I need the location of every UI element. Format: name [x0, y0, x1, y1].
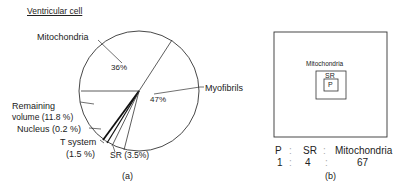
ratio-values: 1 : 4 : 67 — [277, 157, 368, 168]
caption-b: (b) — [325, 172, 336, 181]
label-tsystem-2: (1.5 %) — [66, 150, 95, 159]
caption-a: (a) — [122, 172, 133, 181]
label-mitochondria: Mitochondria — [37, 33, 89, 42]
label-remaining-2: volume (11.8 %) — [12, 113, 73, 122]
box-label-p: P — [328, 81, 333, 88]
ratio-header: P : SR : Mitochondria — [275, 145, 392, 156]
label-myofibrils: Myofibrils — [205, 84, 243, 93]
box-label-mitochondria: Mitochondria — [306, 61, 343, 68]
pct-myofibrils: 47% — [150, 96, 166, 104]
label-sr: SR (3.5%) — [110, 151, 149, 160]
label-nucleus: Nucleus (0.2 %) — [17, 125, 81, 134]
label-tsystem-1: T system — [60, 138, 96, 147]
pct-mitochondria: 36% — [111, 64, 127, 72]
label-remaining-1: Remaining — [12, 102, 55, 111]
box-label-sr: SR — [325, 72, 335, 79]
